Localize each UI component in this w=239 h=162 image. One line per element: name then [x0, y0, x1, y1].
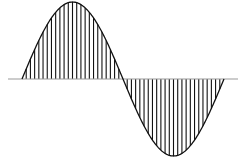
sine-wave-diagram	[0, 0, 239, 162]
